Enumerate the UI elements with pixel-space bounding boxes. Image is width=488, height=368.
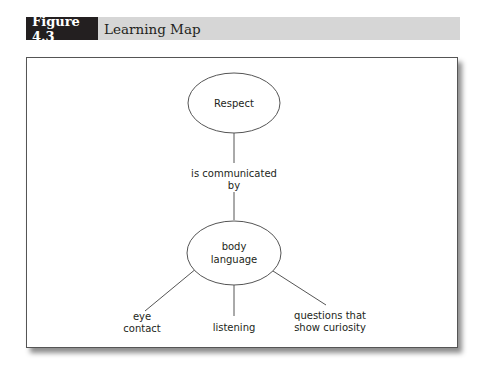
node-body-language-line-2: language [211, 254, 258, 265]
node-questions-line-2: show curiosity [294, 322, 366, 333]
node-body-language-line-1: body [222, 241, 247, 252]
node-body-language-ellipse [187, 221, 281, 285]
connector-body-language-to-questions [273, 271, 326, 305]
learning-map: Respect is communicated by body language… [0, 0, 488, 368]
link-label-line-2: by [228, 180, 240, 191]
node-listening-label: listening [213, 322, 256, 333]
node-questions-line-1: questions that [294, 310, 366, 321]
node-eye-contact-line-1: eye [133, 311, 151, 322]
node-respect-label: Respect [214, 98, 254, 109]
node-eye-contact-line-2: contact [123, 323, 161, 334]
connector-body-language-to-eye-contact [145, 268, 197, 311]
link-label-line-1: is communicated [191, 168, 277, 179]
